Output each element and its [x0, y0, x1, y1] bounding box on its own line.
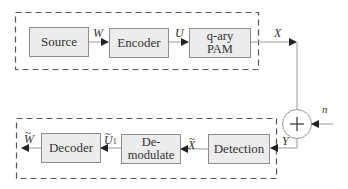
decoder-label: Decoder: [49, 141, 93, 155]
detection-label: Detection: [214, 142, 265, 156]
source-block: Source: [29, 27, 89, 57]
pam-modulator-block: q-ary PAM: [189, 28, 251, 58]
encoder-block: Encoder: [109, 28, 169, 58]
detection-block: Detection: [208, 134, 270, 164]
source-label: Source: [41, 35, 77, 49]
noise-label: n: [322, 103, 328, 115]
signal-u-label: U: [175, 27, 184, 39]
encoder-label: Encoder: [117, 36, 160, 50]
u-hat-tilde: ~: [105, 129, 111, 137]
pam-label-line2: PAM: [207, 43, 233, 56]
u-hat-subscript: 1: [113, 137, 117, 146]
signal-x-label: X: [274, 27, 281, 39]
demod-label-line2: modulate: [128, 149, 175, 162]
demodulate-block: De- modulate: [121, 134, 181, 164]
w-hat-tilde: ~: [25, 128, 31, 136]
signal-w-label: W: [93, 27, 103, 39]
decoder-block: Decoder: [41, 133, 101, 163]
x-hat-tilde: ~: [189, 134, 195, 142]
signal-y-label: Y: [282, 135, 289, 147]
